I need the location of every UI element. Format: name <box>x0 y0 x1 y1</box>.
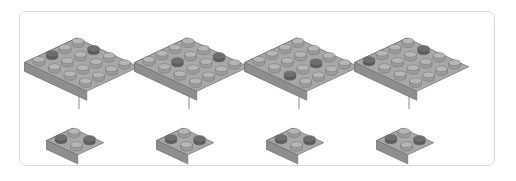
result-plate-2x2 <box>375 115 445 159</box>
source-plate-4x4 <box>353 23 467 89</box>
result-plate-2x2 <box>155 115 225 159</box>
source-plate-4x4 <box>243 23 357 89</box>
panel-2 <box>129 11 248 166</box>
result-plate-2x2 <box>45 115 115 159</box>
panel-4 <box>349 11 468 166</box>
result-plate-2x2 <box>265 115 335 159</box>
panel-3 <box>239 11 358 166</box>
source-plate-4x4 <box>133 23 247 89</box>
figure-canvas <box>0 0 516 181</box>
panel-1 <box>19 11 138 166</box>
source-plate-4x4 <box>23 23 137 89</box>
